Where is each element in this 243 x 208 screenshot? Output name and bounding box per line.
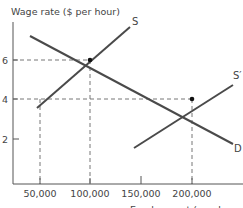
supply-curve-s — [37, 27, 130, 108]
label-s: S — [132, 16, 138, 27]
equilibrium-point-2 — [190, 97, 195, 102]
x-tick-label-150000: 150,000 — [121, 188, 160, 199]
reference-lines — [13, 60, 192, 184]
supply-curve-s-prime — [134, 85, 233, 148]
x-tick-label-200000: 200,000 — [172, 188, 211, 199]
demand-curve-d — [30, 36, 233, 144]
x-axis-label: Employment (number of workers) — [130, 204, 243, 208]
y-tick-label-2: 2 — [2, 134, 8, 145]
y-axis-label: Wage rate ($ per hour) — [11, 6, 120, 17]
x-tick-label-100000: 100,000 — [70, 188, 109, 199]
labor-market-chart: Wage rate ($ per hour) 6 4 2 50,000 100,… — [0, 0, 243, 208]
label-s-prime: S′ — [233, 70, 242, 81]
y-tick-label-6: 6 — [2, 55, 8, 66]
x-tick-label-50000: 50,000 — [23, 188, 56, 199]
label-d: D — [234, 143, 242, 154]
equilibrium-point-1 — [88, 58, 93, 63]
y-tick-label-4: 4 — [2, 94, 8, 105]
